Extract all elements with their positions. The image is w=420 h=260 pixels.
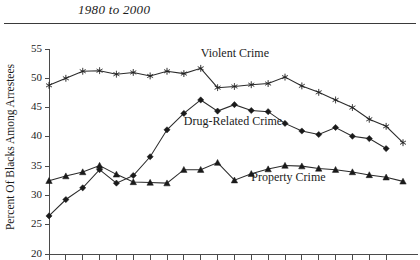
y-tick-label: 55 xyxy=(31,42,43,54)
data-point-marker xyxy=(282,120,288,126)
y-tick-label: 25 xyxy=(31,217,43,229)
data-point-marker xyxy=(214,159,220,165)
data-point-marker xyxy=(333,97,339,104)
data-point-marker xyxy=(366,136,372,142)
data-point-marker xyxy=(46,82,52,89)
data-point-marker xyxy=(248,107,254,113)
data-point-marker xyxy=(383,145,389,151)
data-point-marker xyxy=(231,102,237,108)
chart-page: 1980 to 2000 5550454035302520 Violent Cr… xyxy=(0,0,420,260)
data-point-marker xyxy=(349,104,355,111)
y-tick-label: 35 xyxy=(31,159,43,171)
y-tick-label: 30 xyxy=(31,188,43,200)
y-tick-label: 50 xyxy=(31,71,43,83)
data-point-marker xyxy=(316,89,322,96)
x-axis xyxy=(49,254,418,260)
series-line-violent-crime xyxy=(49,68,403,142)
data-point-marker xyxy=(299,83,305,90)
data-point-marker xyxy=(349,133,355,139)
data-point-marker xyxy=(96,162,102,168)
line-chart: 5550454035302520 Violent CrimeDrug-Relat… xyxy=(0,26,420,260)
data-point-marker xyxy=(332,124,338,130)
y-tick-label: 20 xyxy=(31,247,43,259)
series-layer xyxy=(46,65,406,219)
series-label: Property Crime xyxy=(251,170,325,184)
data-point-marker xyxy=(316,131,322,137)
series-label: Drug-Related Crime xyxy=(184,114,282,128)
series-labels: Violent CrimeDrug-Related CrimeProperty … xyxy=(184,46,326,184)
data-point-marker xyxy=(113,171,119,177)
series-label: Violent Crime xyxy=(201,46,269,60)
chart-canvas: 5550454035302520 Violent CrimeDrug-Relat… xyxy=(0,26,420,260)
header-divider xyxy=(4,23,416,24)
y-axis-title: Percent Of Blacks Among Arrestees xyxy=(4,63,17,230)
y-tick-label: 40 xyxy=(31,129,43,141)
data-point-marker xyxy=(366,116,372,123)
data-point-marker xyxy=(80,169,86,175)
page-title: 1980 to 2000 xyxy=(78,2,150,18)
y-tick-label: 45 xyxy=(31,100,43,112)
data-point-marker xyxy=(282,74,288,81)
data-point-marker xyxy=(63,75,69,82)
y-axis: 5550454035302520 xyxy=(31,42,49,259)
series-line-property-crime xyxy=(49,163,403,184)
data-point-marker xyxy=(299,128,305,134)
